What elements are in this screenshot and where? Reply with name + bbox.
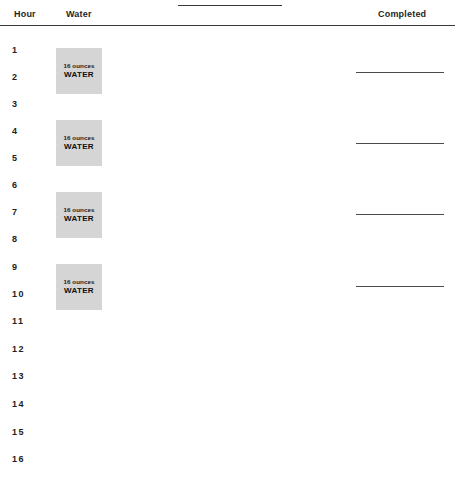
hour-number: 9 bbox=[12, 261, 42, 273]
hour-row: 16 bbox=[0, 453, 455, 471]
water-box-ounces: 16 ounces bbox=[63, 62, 94, 70]
water-box-label: WATER bbox=[64, 70, 94, 80]
hour-row: 13 bbox=[0, 370, 455, 388]
hour-number: 2 bbox=[12, 71, 42, 83]
hour-number: 15 bbox=[12, 426, 42, 438]
completed-write-in-line[interactable] bbox=[356, 214, 444, 215]
completed-write-in-line[interactable] bbox=[356, 143, 444, 144]
hour-number: 11 bbox=[12, 315, 42, 327]
hour-number: 12 bbox=[12, 343, 42, 355]
water-box-label: WATER bbox=[64, 214, 94, 224]
hour-number: 6 bbox=[12, 179, 42, 191]
water-serving-box: 16 ouncesWATER bbox=[56, 192, 102, 238]
water-box-ounces: 16 ounces bbox=[63, 134, 94, 142]
tracker-rows: 1234567891011121314151616 ouncesWATER16 … bbox=[0, 0, 455, 477]
water-box-label: WATER bbox=[64, 286, 94, 296]
hour-number: 1 bbox=[12, 44, 42, 56]
hour-number: 10 bbox=[12, 288, 42, 300]
hour-row: 15 bbox=[0, 426, 455, 444]
hour-number: 7 bbox=[12, 206, 42, 218]
hour-number: 8 bbox=[12, 233, 42, 245]
hour-number: 4 bbox=[12, 125, 42, 137]
hour-row: 12 bbox=[0, 343, 455, 361]
water-box-ounces: 16 ounces bbox=[63, 278, 94, 286]
hour-number: 5 bbox=[12, 152, 42, 164]
completed-write-in-line[interactable] bbox=[356, 286, 444, 287]
water-tracker-sheet: Hour Water Completed 1234567891011121314… bbox=[0, 0, 455, 477]
water-serving-box: 16 ouncesWATER bbox=[56, 264, 102, 310]
hour-number: 16 bbox=[12, 453, 42, 465]
hour-number: 3 bbox=[12, 98, 42, 110]
water-box-label: WATER bbox=[64, 142, 94, 152]
hour-row: 14 bbox=[0, 398, 455, 416]
water-serving-box: 16 ouncesWATER bbox=[56, 120, 102, 166]
hour-row: 11 bbox=[0, 315, 455, 333]
water-serving-box: 16 ouncesWATER bbox=[56, 48, 102, 94]
hour-number: 14 bbox=[12, 398, 42, 410]
hour-row: 3 bbox=[0, 98, 455, 116]
water-box-ounces: 16 ounces bbox=[63, 206, 94, 214]
completed-write-in-line[interactable] bbox=[356, 72, 444, 73]
hour-number: 13 bbox=[12, 370, 42, 382]
